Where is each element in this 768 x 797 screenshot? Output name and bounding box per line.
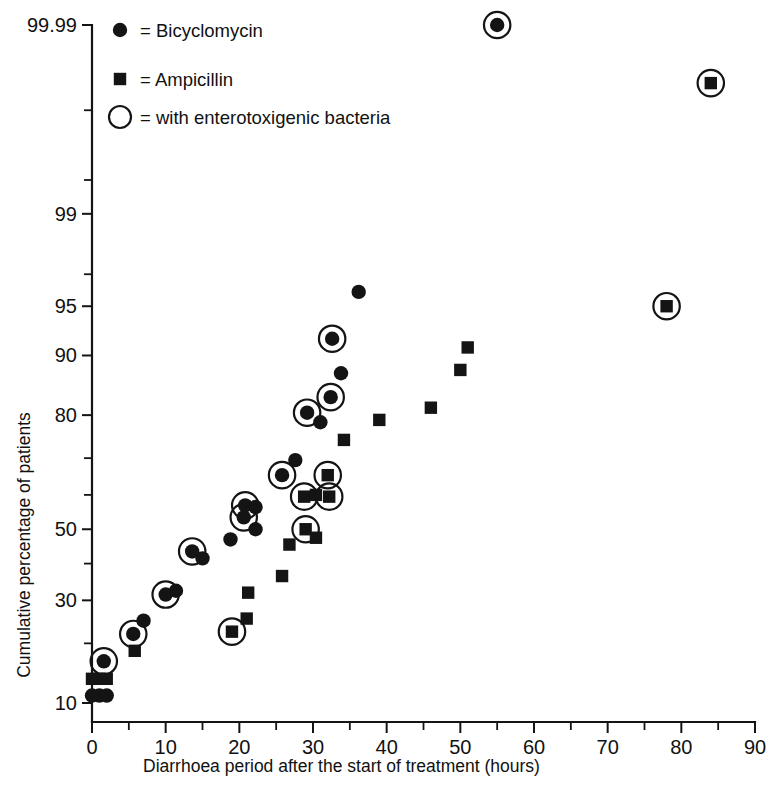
filled-circle-marker [223,532,237,546]
data-point-bicyclomycin [313,415,327,429]
data-point-ampicillin [129,645,141,657]
filled-square-marker [373,414,385,426]
legend-label: = Ampicillin [140,69,233,90]
data-point-bicyclomycin [91,648,117,674]
data-point-ampicillin [310,532,322,544]
x-axis-title: Diarrhoea period after the start of trea… [143,756,540,776]
filled-square-marker [322,469,334,481]
data-point-ampicillin [425,401,437,413]
filled-square-marker [226,625,238,637]
filled-circle-marker [100,688,114,702]
x-tick-label: 50 [449,736,471,758]
x-tick-label: 30 [302,736,324,758]
filled-circle-marker [237,510,251,524]
data-point-ampicillin [698,70,724,96]
x-tick-label: 70 [597,736,619,758]
filled-square-marker [241,612,253,624]
legend-item-bicyclomycin: = Bicyclomycin [113,20,263,41]
y-tick-label: 99.99 [27,14,77,36]
data-point-bicyclomycin [248,522,262,536]
filled-circle-marker [351,285,365,299]
probability-plot-chart: 99.9999959080503010 0102030405060708090 … [0,0,768,797]
open-circle-icon [109,106,131,128]
filled-circle-marker [195,551,209,565]
y-tick-label: 90 [55,344,77,366]
data-point-ampicillin [338,434,350,446]
x-tick-label: 10 [155,736,177,758]
filled-square-marker [129,645,141,657]
filled-circle-marker [325,332,339,346]
data-point-bicyclomycin [195,551,209,565]
legend-label: = with enterotoxigenic bacteria [140,107,391,128]
filled-square-marker [425,401,437,413]
filled-circle-marker [334,366,348,380]
filled-circle-marker [313,415,327,429]
data-point-ampicillin [283,538,295,550]
filled-circle-marker [275,468,289,482]
filled-square-marker [660,300,672,312]
filled-square-marker [298,490,310,502]
data-point-bicyclomycin [334,366,348,380]
x-tick-label: 60 [523,736,545,758]
filled-circle-marker [136,613,150,627]
filled-square-marker [276,570,288,582]
data-point-bicyclomycin [317,384,343,410]
data-point-ampicillin [462,341,474,353]
y-tick-label: 50 [55,518,77,540]
filled-square-marker [454,364,466,376]
x-tick-label: 0 [86,736,97,758]
data-point-ampicillin [653,293,679,319]
x-axis: 0102030405060708090 [86,722,766,758]
y-tick-label: 10 [55,692,77,714]
y-tick-label: 99 [55,203,77,225]
filled-square-marker [242,586,254,598]
data-point-bicyclomycin [319,326,345,352]
filled-square-marker [338,434,350,446]
data-point-bicyclomycin [484,12,510,38]
filled-square-marker [310,532,322,544]
x-tick-label: 90 [744,736,766,758]
data-point-bicyclomycin [288,453,302,467]
filled-square-marker [283,538,295,550]
filled-circle-marker [97,654,111,668]
data-point-ampicillin [241,612,253,624]
plot-canvas: 99.9999959080503010 0102030405060708090 … [0,0,768,797]
legend: = Bicyclomycin= Ampicillin= with enterot… [109,20,391,128]
legend-item-with-enterotoxigenic-bacteria: = with enterotoxigenic bacteria [109,106,391,128]
legend-label: = Bicyclomycin [140,20,263,41]
filled-circle-icon [113,23,127,37]
y-axis-title: Cumulative percentage of patients [14,412,34,678]
filled-square-marker [101,673,113,685]
x-tick-label: 40 [376,736,398,758]
filled-circle-marker [126,627,140,641]
data-point-ampicillin [242,586,254,598]
y-tick-label: 80 [55,404,77,426]
data-point-ampicillin [276,570,288,582]
data-point-bicyclomycin [136,613,150,627]
filled-circle-marker [248,522,262,536]
filled-square-icon [114,73,126,85]
filled-square-marker [323,490,335,502]
y-tick-label: 30 [55,589,77,611]
filled-circle-marker [300,405,314,419]
x-tick-label: 80 [670,736,692,758]
data-point-bicyclomycin [100,688,114,702]
filled-circle-marker [288,453,302,467]
filled-circle-marker [323,390,337,404]
filled-square-marker [705,77,717,89]
x-tick-label: 20 [228,736,250,758]
data-point-bicyclomycin [169,584,183,598]
legend-item-ampicillin: = Ampicillin [114,69,233,90]
data-point-ampicillin [454,364,466,376]
y-axis: 99.9999959080503010 [27,14,92,722]
filled-circle-marker [490,18,504,32]
data-point-bicyclomycin [351,285,365,299]
y-tick-label: 95 [55,295,77,317]
data-point-bicyclomycin [223,532,237,546]
filled-circle-marker [169,584,183,598]
filled-square-marker [462,341,474,353]
data-point-ampicillin [101,673,113,685]
data-point-ampicillin [373,414,385,426]
